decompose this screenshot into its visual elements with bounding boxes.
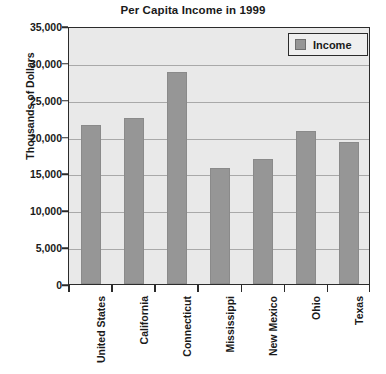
legend-label-income: Income bbox=[313, 39, 352, 51]
chart-title: Per Capita Income in 1999 bbox=[0, 4, 386, 16]
x-axis-tick-label: Connecticut bbox=[181, 296, 193, 357]
x-axis-tick-mark bbox=[154, 285, 156, 292]
y-axis-tick-label: 25,000 bbox=[2, 95, 62, 107]
chart-legend: Income bbox=[288, 33, 368, 56]
y-axis-tick-label: 0 bbox=[2, 279, 62, 291]
bar bbox=[339, 142, 359, 284]
y-axis-tick-label: 10,000 bbox=[2, 205, 62, 217]
gridline bbox=[69, 65, 369, 66]
gridline bbox=[69, 102, 369, 103]
y-axis-tick-label: 5,000 bbox=[2, 242, 62, 254]
x-axis-tick-mark bbox=[369, 285, 371, 292]
bar bbox=[167, 72, 187, 284]
x-axis-tick-label: Ohio bbox=[310, 296, 322, 320]
x-axis-tick-label: New Mexico bbox=[267, 296, 279, 356]
x-axis-tick-label: California bbox=[138, 296, 150, 344]
y-axis-tick-label: 20,000 bbox=[2, 132, 62, 144]
bar bbox=[253, 159, 273, 284]
y-axis-tick-label: 15,000 bbox=[2, 168, 62, 180]
x-axis-tick-mark bbox=[68, 285, 70, 292]
x-axis-tick-mark bbox=[327, 285, 329, 292]
bar bbox=[296, 131, 316, 284]
bar bbox=[81, 125, 101, 284]
plot-area bbox=[68, 27, 370, 285]
gridline bbox=[69, 139, 369, 140]
x-axis-tick-mark bbox=[241, 285, 243, 292]
bar bbox=[124, 118, 144, 284]
legend-swatch-income bbox=[295, 39, 306, 50]
y-axis-tick-label: 35,000 bbox=[2, 21, 62, 33]
x-axis-tick-label: Mississippi bbox=[224, 296, 236, 353]
x-axis-tick-mark bbox=[284, 285, 286, 292]
x-axis-tick-label: United States bbox=[95, 296, 107, 363]
x-axis-tick-label: Texas bbox=[353, 296, 365, 325]
x-axis-tick-mark bbox=[197, 285, 199, 292]
y-axis-tick-label: 30,000 bbox=[2, 58, 62, 70]
plot-inner bbox=[69, 28, 369, 284]
x-axis-tick-mark bbox=[111, 285, 113, 292]
bar bbox=[210, 168, 230, 284]
chart-figure: Per Capita Income in 1999 Thousands of D… bbox=[0, 0, 386, 374]
